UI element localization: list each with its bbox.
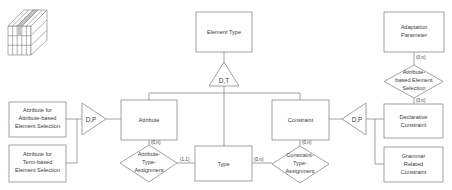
relationship-attribute-based-element-selection[interactable]: Attribute- based Element Selection	[384, 65, 443, 98]
svg-text:Adaptation: Adaptation	[401, 24, 428, 30]
card-adapt-rel: (0,n)	[416, 55, 426, 60]
relationship-attribute-type-assignment[interactable]: Attribute- Type- Assignment	[120, 145, 177, 182]
relationship-constraint-type-assignment[interactable]: Constraint- Type- Assignment	[272, 146, 329, 183]
entity-element-type[interactable]: Element Type	[196, 12, 252, 52]
svg-text:D,P: D,P	[352, 116, 363, 123]
svg-text:Element Selection: Element Selection	[15, 123, 60, 129]
generalization-dt[interactable]: D,T	[209, 62, 239, 86]
svg-text:Constraint: Constraint	[401, 169, 427, 175]
svg-text:Constraint: Constraint	[401, 122, 427, 128]
svg-text:D,T: D,T	[219, 77, 229, 84]
entity-attr-term-based-selection[interactable]: Attribute for Term-based Element Selecti…	[9, 145, 66, 182]
svg-text:Type-: Type-	[293, 160, 307, 166]
svg-text:Declarative: Declarative	[400, 114, 428, 120]
svg-text:Element Type: Element Type	[207, 29, 241, 35]
entity-declarative-constraint[interactable]: Declarative Constraint	[384, 104, 443, 138]
svg-text:Selection: Selection	[402, 85, 425, 91]
cube-icon	[8, 10, 47, 55]
card-rel-decl: (0,n)	[416, 98, 426, 103]
card-rel-type-left: (1,1)	[180, 157, 190, 162]
svg-text:Attribute for: Attribute for	[23, 151, 52, 157]
svg-text:Attribute: Attribute	[139, 117, 160, 123]
svg-text:Element Selection: Element Selection	[15, 167, 60, 173]
card-constr-rel: (0,n)	[302, 140, 312, 145]
svg-text:Attribute-: Attribute-	[138, 151, 161, 157]
svg-text:Grammar: Grammar	[402, 153, 426, 159]
svg-text:based Element: based Element	[395, 77, 433, 83]
svg-text:Attribute for: Attribute for	[23, 107, 52, 113]
entity-attr-attribute-based-selection[interactable]: Attribute for Attribute-based Element Se…	[9, 102, 66, 137]
svg-text:Assignment: Assignment	[134, 167, 164, 173]
entity-constraint[interactable]: Constraint	[272, 100, 329, 140]
entity-grammar-related-constraint[interactable]: Grammar Related Constraint	[384, 147, 443, 182]
generalization-dp-right[interactable]: D,P	[342, 103, 366, 135]
entity-type[interactable]: Type	[195, 146, 252, 181]
entity-adaptation-parameter[interactable]: Adaptation Parameter	[384, 12, 444, 52]
svg-text:Attribute-based: Attribute-based	[19, 115, 57, 121]
generalization-dp-left[interactable]: D,P	[82, 103, 106, 135]
svg-text:D,P: D,P	[86, 116, 97, 123]
svg-text:Constraint: Constraint	[288, 117, 314, 123]
svg-text:Parameter: Parameter	[401, 32, 427, 38]
entity-attribute[interactable]: Attribute	[121, 100, 177, 140]
svg-text:Assignment: Assignment	[285, 168, 315, 174]
svg-text:Constraint-: Constraint-	[286, 152, 313, 158]
card-attr-rel: (0,n)	[151, 140, 161, 145]
svg-text:Term-based: Term-based	[23, 159, 53, 165]
svg-text:Type-: Type-	[142, 159, 156, 165]
svg-text:Type: Type	[217, 161, 229, 167]
svg-text:Attribute-: Attribute-	[403, 69, 426, 75]
svg-text:Related: Related	[404, 161, 423, 167]
card-type-rel-right: (0,n)	[254, 157, 264, 162]
